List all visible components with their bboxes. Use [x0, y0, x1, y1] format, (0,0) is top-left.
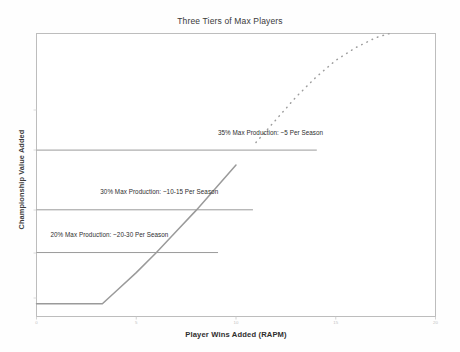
x-tick-label-5: 5 — [126, 320, 146, 325]
annotation-tier-30: 30% Max Production: ~10-15 Per Season — [100, 188, 218, 195]
x-axis-title: Player Wins Added (RAPM) — [36, 330, 436, 339]
annotation-tier-20: 20% Max Production: ~20-30 Per Season — [51, 231, 169, 238]
plot-canvas — [0, 0, 460, 352]
x-tick-label-10: 10 — [226, 320, 246, 325]
x-tick-label-15: 15 — [326, 320, 346, 325]
x-tick-label-0: 0 — [27, 320, 47, 325]
chart-figure: Three Tiers of Max Players 35% M — [0, 0, 460, 352]
plot-area-border — [37, 34, 436, 317]
x-tick-label-20: 20 — [426, 320, 446, 325]
annotation-tier-35: 35% Max Production: ~5 Per Season — [218, 129, 323, 136]
y-axis-title: Championship Value Added — [17, 110, 26, 250]
